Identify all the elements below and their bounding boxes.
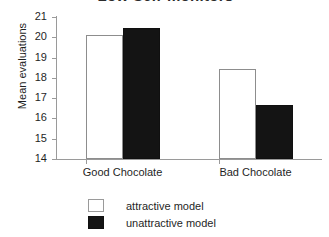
x-tick-mark	[219, 159, 220, 164]
plot-area	[56, 17, 322, 159]
white-square-icon	[88, 199, 104, 212]
bar-attractive-0	[86, 35, 123, 159]
x-tick-label: Bad Chocolate	[196, 166, 316, 178]
legend-item-unattractive: unattractive model	[88, 214, 216, 231]
y-tick-label: 15	[7, 132, 47, 144]
y-tick-label: 14	[7, 152, 47, 164]
y-tick-label: 21	[7, 10, 47, 22]
y-tick-label: 18	[7, 71, 47, 83]
legend-label-unattractive: unattractive model	[126, 217, 216, 229]
y-tick-label: 16	[7, 111, 47, 123]
bar-attractive-1	[219, 69, 256, 159]
y-tick-label: 19	[7, 51, 47, 63]
black-square-icon	[88, 216, 104, 229]
bar-chart: Low Self-monitors Mean evaluations 21201…	[0, 0, 329, 237]
x-tick-mark	[86, 159, 87, 164]
chart-legend: attractive model unattractive model	[88, 197, 216, 231]
legend-label-attractive: attractive model	[126, 200, 204, 212]
y-tick-label: 17	[7, 91, 47, 103]
legend-item-attractive: attractive model	[88, 197, 216, 214]
y-tick-label: 20	[7, 30, 47, 42]
x-tick-label: Good Chocolate	[63, 166, 183, 178]
bar-unattractive-1	[256, 105, 293, 159]
chart-title: Low Self-monitors	[58, 0, 273, 4]
bar-unattractive-0	[123, 28, 160, 159]
y-tick-mark	[52, 159, 57, 160]
x-axis-line	[52, 159, 322, 160]
